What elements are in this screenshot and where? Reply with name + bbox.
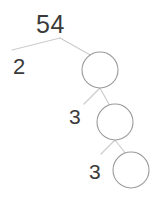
circle-level-2[interactable] <box>97 104 133 140</box>
factor-label-3-second: 3 <box>89 161 101 182</box>
branch-level2-right <box>115 140 126 154</box>
branch-root-right <box>60 38 92 56</box>
root-number-label: 54 <box>36 12 65 37</box>
circle-level-3[interactable] <box>113 152 149 188</box>
tree-graphics <box>0 0 161 202</box>
factor-tree-diagram: 54 2 3 3 <box>0 0 161 202</box>
factor-label-2: 2 <box>13 56 25 78</box>
factor-label-3-first: 3 <box>69 106 81 127</box>
branch-level1-right <box>100 88 110 106</box>
branch-level2-left <box>101 140 115 154</box>
circle-level-1[interactable] <box>82 52 118 88</box>
branch-level1-left <box>84 88 100 104</box>
branch-root-left <box>12 38 60 50</box>
